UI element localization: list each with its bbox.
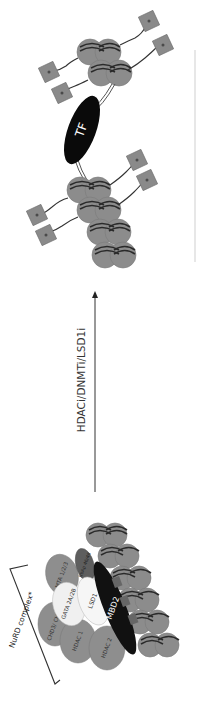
nucleosome-cluster-lower xyxy=(26,149,157,268)
treatment-label: HDACi/DNMTi/LSD1i xyxy=(75,328,87,432)
open-chromatin-panel: TF xyxy=(26,10,195,268)
acetyl-mark-icon xyxy=(26,204,47,225)
nucleosome-cluster-upper xyxy=(38,10,173,103)
diagram-canvas: TF HDACi/DNMTi/LSD1i xyxy=(0,0,197,701)
acetyl-mark-icon xyxy=(136,169,157,190)
treatment-arrow: HDACi/DNMTi/LSD1i xyxy=(75,291,98,492)
acetyl-mark-icon xyxy=(126,149,147,170)
acetyl-mark-icon xyxy=(152,34,173,55)
transcription-factor: TF xyxy=(57,91,108,168)
acetyl-mark-icon xyxy=(35,224,56,245)
nurd-complex-panel: CHD3/ CHD4 MTA 1/2/3 RbAp 46/48 HDAC 1 H… xyxy=(7,523,179,684)
acetyl-mark-icon xyxy=(38,61,59,82)
acetyl-mark-icon xyxy=(51,82,72,103)
acetyl-mark-icon xyxy=(138,10,159,31)
nucleosome xyxy=(88,60,132,86)
arrow-up-icon xyxy=(92,291,98,298)
